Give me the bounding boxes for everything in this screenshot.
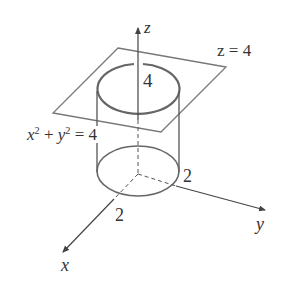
y-axis-label: y — [256, 215, 264, 233]
x-axis-label: x — [61, 256, 69, 274]
eq-x: x — [27, 125, 35, 144]
y-axis-hidden — [138, 174, 176, 186]
plane-z-equals-4 — [53, 48, 226, 132]
x-intercept-label: 2 — [115, 206, 124, 224]
cylinder-diagram: z z = 4 4 x2 + y2 = 4 2 2 y x — [0, 0, 284, 285]
y-axis — [176, 186, 265, 210]
height-label: 4 — [143, 71, 153, 90]
cylinder-equation-label: x2 + y2 = 4 — [26, 126, 98, 143]
plane-label: z = 4 — [217, 42, 251, 59]
z-axis-label: z — [144, 19, 151, 36]
eq-equals: = 4 — [70, 125, 97, 144]
y-intercept-label: 2 — [183, 167, 192, 185]
x-axis — [63, 199, 114, 252]
eq-plus: + — [40, 125, 58, 144]
